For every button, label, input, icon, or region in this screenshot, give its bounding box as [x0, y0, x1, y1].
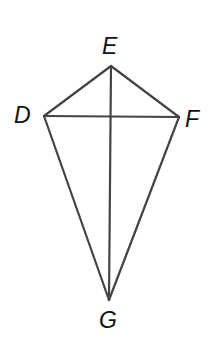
diagonal-DF [44, 116, 179, 117]
vertex-label-e: E [102, 35, 117, 58]
vertex-label-d: D [14, 104, 31, 127]
kite-diagram: E D F G [0, 0, 221, 343]
diagonal-EG [109, 66, 111, 300]
side-DG [44, 116, 109, 300]
side-EF [111, 66, 179, 117]
side-ED [44, 66, 111, 116]
side-FG [109, 117, 179, 300]
vertex-label-g: G [99, 309, 117, 332]
vertex-label-f: F [185, 108, 199, 131]
